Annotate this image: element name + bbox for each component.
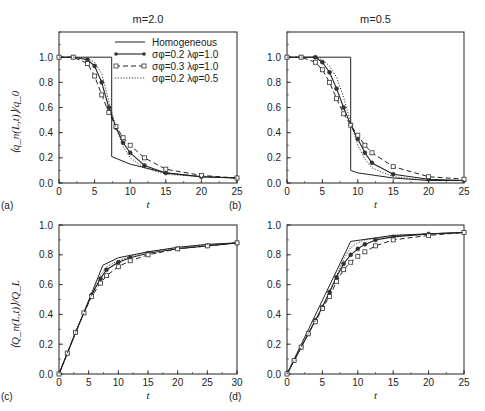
series-line xyxy=(287,57,464,179)
y-tick-label: 0.0 xyxy=(267,178,281,189)
data-marker xyxy=(335,280,339,284)
data-marker xyxy=(462,230,466,234)
x-axis-label: t xyxy=(146,389,150,401)
data-marker xyxy=(363,250,367,254)
x-tick-label: 0 xyxy=(284,186,290,197)
x-tick-label: 10 xyxy=(352,186,364,197)
data-marker xyxy=(235,176,239,180)
x-tick-label: 25 xyxy=(458,377,470,388)
chart-panel-c: 0510152025300.00.20.40.60.81.0t(c)⟨Q_n(L… xyxy=(1,220,243,403)
data-marker xyxy=(356,247,360,251)
data-marker xyxy=(391,172,395,176)
data-marker xyxy=(342,268,346,272)
x-tick-label: 20 xyxy=(196,186,208,197)
data-marker xyxy=(107,111,111,115)
panel-title: m=0.5 xyxy=(360,13,391,25)
legend-entry: σφ=0.2 λφ=1.0 xyxy=(152,49,219,60)
x-tick-label: 15 xyxy=(388,377,400,388)
chart-panel-b: 05101520250.00.20.40.60.81.0m=0.5t(b) xyxy=(229,13,470,211)
data-marker xyxy=(335,97,339,101)
data-marker xyxy=(342,112,346,116)
y-tick-label: 0.0 xyxy=(39,369,53,380)
data-marker xyxy=(363,143,367,147)
data-marker xyxy=(82,311,86,315)
x-tick-label: 5 xyxy=(92,186,98,197)
panel-title: m=2.0 xyxy=(133,13,164,25)
x-tick-label: 5 xyxy=(320,377,326,388)
data-marker xyxy=(99,277,103,281)
y-tick-label: 0.0 xyxy=(39,178,53,189)
y-tick-label: 0.6 xyxy=(267,279,281,290)
series-line xyxy=(287,57,464,180)
legend-entry: σφ=0.2 λφ=0.5 xyxy=(152,73,219,84)
x-tick-label: 5 xyxy=(320,186,326,197)
data-marker xyxy=(100,80,104,84)
y-tick-label: 0.2 xyxy=(267,339,281,350)
series-line xyxy=(59,243,237,374)
y-tick-label: 0.2 xyxy=(39,152,53,163)
data-marker xyxy=(99,281,103,285)
x-tick-label: 10 xyxy=(125,186,137,197)
y-tick-label: 1.0 xyxy=(267,52,281,63)
x-tick-label: 25 xyxy=(458,186,470,197)
data-marker xyxy=(85,61,89,65)
data-marker xyxy=(327,295,331,299)
y-tick-label: 0.4 xyxy=(267,309,281,320)
y-tick-label: 1.0 xyxy=(267,220,281,231)
data-marker xyxy=(100,93,104,97)
data-marker xyxy=(370,151,374,155)
data-marker xyxy=(391,238,395,242)
x-tick-label: 10 xyxy=(352,377,364,388)
x-tick-label: 0 xyxy=(284,377,290,388)
x-tick-label: 10 xyxy=(113,377,125,388)
y-tick-label: 0.0 xyxy=(267,369,281,380)
x-tick-label: 5 xyxy=(86,377,92,388)
data-marker xyxy=(342,262,346,266)
data-marker xyxy=(104,274,108,278)
y-axis-label: ⟨q_n(L,t)⟩/q_0 xyxy=(9,90,22,154)
x-tick-label: 15 xyxy=(160,186,172,197)
data-marker xyxy=(327,70,331,74)
x-tick-label: 15 xyxy=(388,186,400,197)
data-marker xyxy=(335,87,339,91)
figure-canvas: 05101520250.00.20.40.60.81.0m=2.0t(a)⟨q_… xyxy=(0,0,485,411)
x-tick-label: 20 xyxy=(423,186,435,197)
x-tick-label: 20 xyxy=(172,377,184,388)
x-axis-label: t xyxy=(146,198,150,210)
series-line xyxy=(287,233,464,375)
data-marker xyxy=(356,133,360,137)
data-marker xyxy=(142,156,146,160)
y-tick-label: 0.6 xyxy=(39,279,53,290)
panel-label: (a) xyxy=(1,200,13,211)
y-tick-label: 0.2 xyxy=(39,339,53,350)
series-line xyxy=(287,57,464,180)
data-marker xyxy=(164,167,168,171)
data-marker xyxy=(363,151,367,155)
data-marker xyxy=(313,320,317,324)
data-marker xyxy=(349,260,353,264)
data-marker xyxy=(327,80,331,84)
data-marker xyxy=(116,260,120,264)
y-tick-label: 0.4 xyxy=(39,309,53,320)
y-tick-label: 1.0 xyxy=(39,220,53,231)
data-marker xyxy=(374,244,378,248)
data-marker xyxy=(313,60,317,64)
panel-label: (b) xyxy=(229,200,241,211)
x-tick-label: 20 xyxy=(423,377,435,388)
data-marker xyxy=(121,141,125,145)
x-tick-label: 25 xyxy=(202,377,214,388)
data-marker xyxy=(349,253,353,257)
plot-frame xyxy=(59,225,237,374)
data-marker xyxy=(391,165,395,169)
data-marker xyxy=(427,175,431,179)
data-marker xyxy=(299,345,303,349)
y-axis-label: ⟨Q_n(L,t)⟩/Q_L xyxy=(9,280,22,349)
y-tick-label: 1.0 xyxy=(39,52,53,63)
y-tick-label: 0.6 xyxy=(267,102,281,113)
panel-label: (c) xyxy=(1,391,13,402)
data-marker xyxy=(146,253,150,257)
y-tick-label: 0.4 xyxy=(39,127,53,138)
panel-label: (d) xyxy=(229,391,241,402)
data-marker xyxy=(121,136,125,140)
y-tick-label: 0.8 xyxy=(39,249,53,260)
